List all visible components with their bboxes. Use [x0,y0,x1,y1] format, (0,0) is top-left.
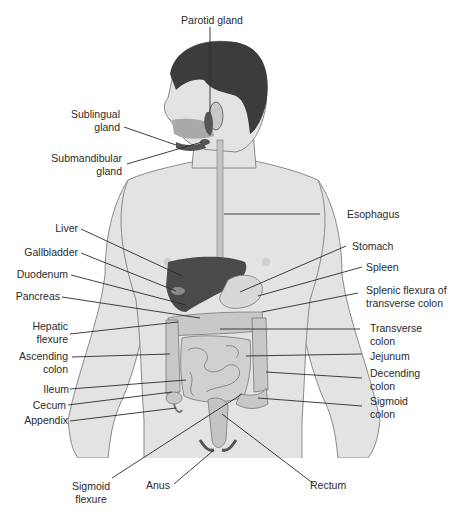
label-transverse-colon-line1: Transverse [370,322,422,335]
label-sigmoid-colon-line1: Sigmoid [370,395,408,408]
label-jejunum: Jejunum [370,350,410,363]
label-gallbladder: Gallbladder [0,246,78,259]
label-esophagus: Esophagus [347,208,400,221]
small-intestine [181,336,251,402]
label-parotid-gland: Parotid gland [170,14,254,27]
label-ascending-colon-line2: colon [0,363,68,376]
label-splenic-flexura-line1: Splenic flexura of [366,284,447,297]
digestive-system-diagram: Parotid gland Sublingual gland Submandib… [0,0,461,512]
label-anus: Anus [146,479,170,492]
label-transverse-colon-line2: colon [370,335,395,348]
label-stomach: Stomach [352,240,393,253]
label-cecum: Cecum [0,399,66,412]
label-sublingual-gland-line1: Sublingual [40,108,120,121]
label-submandibular-gland-line1: Submandibular [20,152,122,165]
label-hepatic-flexure-line2: flexure [0,333,68,346]
head [164,41,267,152]
label-submandibular-gland-line2: gland [20,165,122,178]
label-ascending-colon-line1: Ascending [0,350,68,363]
label-pancreas: Pancreas [0,290,60,303]
label-ileum: Ileum [0,383,69,396]
label-spleen: Spleen [366,261,399,274]
label-splenic-flexura-line2: transverse colon [366,297,443,310]
label-decending-colon-line2: colon [370,380,395,393]
label-sigmoid-flexure-line1: Sigmoid [60,480,122,493]
esophagus-shape [217,140,223,270]
label-hepatic-flexure-line1: Hepatic [0,320,68,333]
label-sublingual-gland-line2: gland [40,121,120,134]
label-rectum: Rectum [310,479,346,492]
label-duodenum: Duodenum [0,268,68,281]
label-appendix: Appendix [0,414,68,427]
label-sigmoid-colon-line2: colon [370,408,395,421]
label-sigmoid-flexure-line2: flexure [60,493,122,506]
label-decending-colon-line1: Decending [370,367,420,380]
label-liver: Liver [20,222,78,235]
